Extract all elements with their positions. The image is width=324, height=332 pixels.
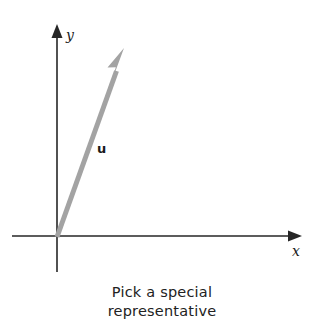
x-axis-arrowhead [288,231,302,242]
y-axis-label: y [65,27,75,43]
vector-u-label: u [97,141,106,156]
caption-line-1: Pick a special [0,283,324,302]
y-axis-arrowhead [52,24,63,38]
figure-caption: Pick a special representative [0,283,324,321]
figure-root: y x u Pick a special representative [0,0,324,332]
caption-line-2: representative [0,302,324,321]
vector-u-shaft [57,71,117,237]
vector-diagram: y x u [0,0,324,280]
x-axis-label: x [292,243,300,259]
